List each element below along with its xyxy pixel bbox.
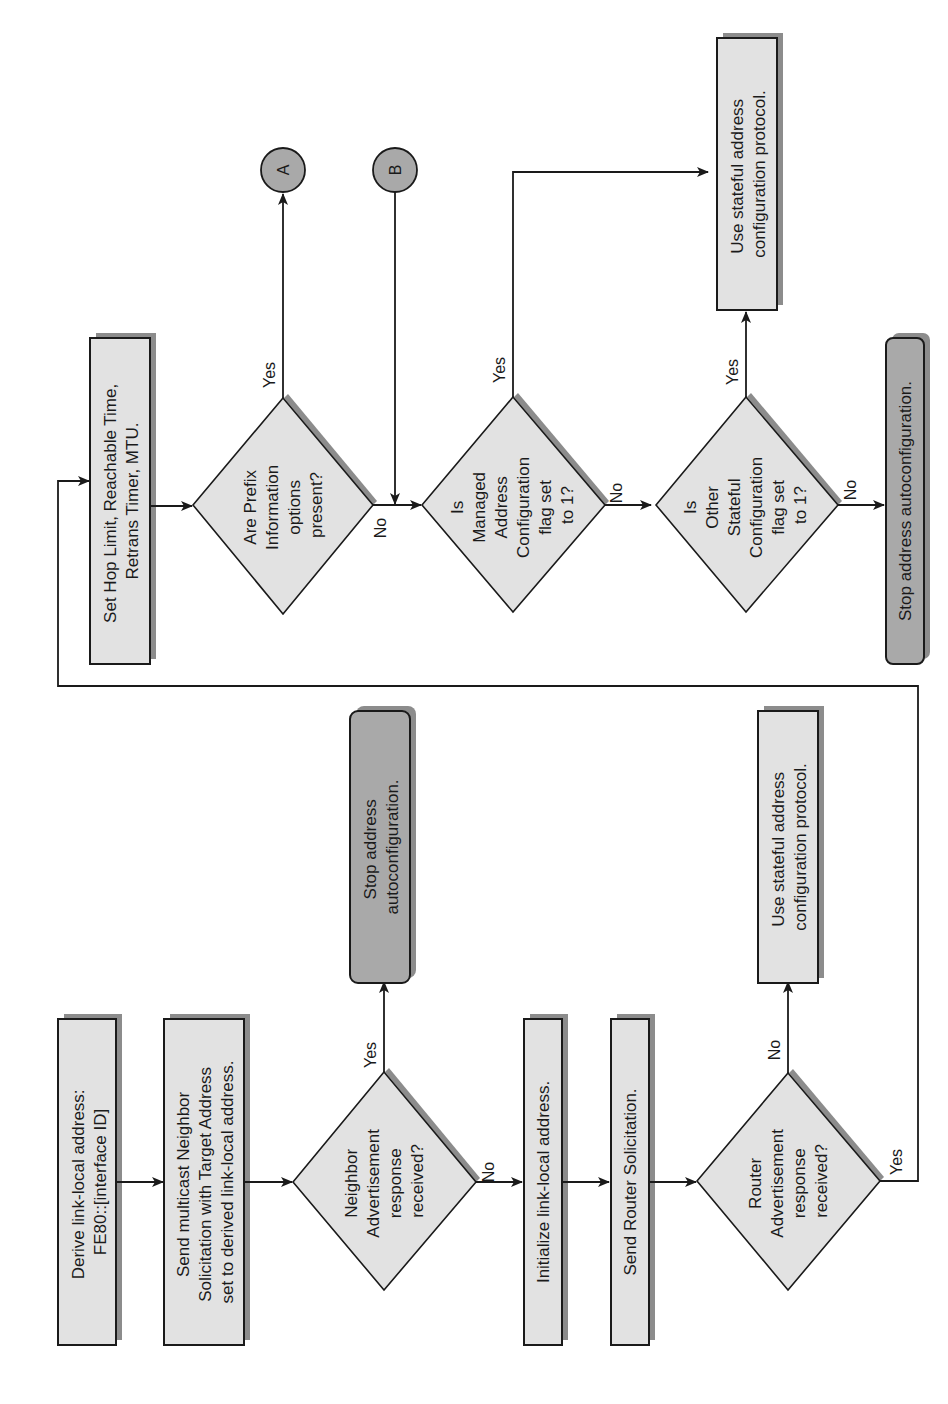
connector-b-label: B: [387, 165, 404, 176]
node-init-text: Initialize link-local address.: [534, 1081, 553, 1283]
decision-router-advertisement: Router Advertisement response received?: [697, 1069, 884, 1290]
node-initialize-link-local: Initialize link-local address.: [524, 1014, 568, 1345]
arrow-managed-yes: [513, 172, 708, 397]
decision-managed-address-flag: Is Managed Address Configuration flag se…: [422, 393, 609, 612]
edge-label-other-no: No: [842, 480, 859, 501]
edge-label-ra-yes: Yes: [888, 1149, 905, 1175]
edge-label-prefix-no: No: [372, 518, 389, 539]
connector-a-label: A: [275, 164, 292, 175]
edge-label-ra-no: No: [766, 1040, 783, 1061]
terminal-stop-autoconfig-2: Stop address autoconfiguration.: [886, 333, 930, 664]
decision-other-stateful-flag: Is Other Stateful Configuration flag set…: [656, 393, 842, 612]
terminal-stop-autoconfig-1: Stop address autoconfiguration.: [350, 706, 416, 983]
edge-label-na-no: No: [480, 1162, 497, 1183]
node-send-neighbor-solicitation: Send multicast Neighbor Solicitation wit…: [164, 1014, 250, 1345]
node-send-router-solicitation: Send Router Solicitation.: [611, 1014, 655, 1345]
node-use-stateful-2: Use stateful address configuration proto…: [717, 33, 783, 310]
node-send-rs-text: Send Router Solicitation.: [621, 1088, 640, 1275]
edge-label-other-yes: Yes: [724, 359, 741, 385]
node-send-ns-text: Send multicast Neighbor Solicitation wit…: [174, 1061, 237, 1304]
node-use-stateful-1: Use stateful address configuration proto…: [758, 706, 824, 983]
edge-label-managed-yes: Yes: [491, 357, 508, 383]
terminal-stop-2-text: Stop address autoconfiguration.: [896, 381, 915, 621]
flowchart: Derive link-local address: FE80::[interf…: [0, 0, 948, 1404]
connector-b: B: [373, 148, 417, 192]
edge-label-na-yes: Yes: [362, 1042, 379, 1068]
node-derive-link-local: Derive link-local address: FE80::[interf…: [58, 1014, 122, 1345]
decision-neighbor-advertisement: Neighbor Advertisement response received…: [293, 1068, 480, 1290]
edge-label-prefix-yes: Yes: [261, 362, 278, 388]
node-set-hop-limit: Set Hop Limit, Reachable Time, Retrans T…: [90, 333, 156, 664]
decision-prefix-information: Are Prefix Information options present?: [193, 394, 377, 614]
edge-label-managed-no: No: [608, 483, 625, 504]
connector-a: A: [261, 148, 305, 192]
